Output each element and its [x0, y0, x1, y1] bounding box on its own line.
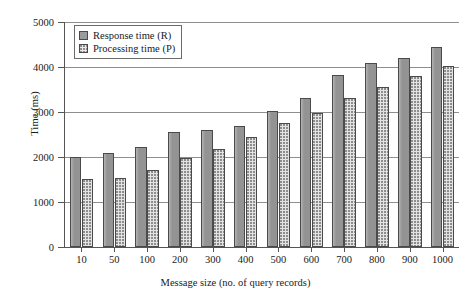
bar-group	[267, 22, 291, 247]
bar-processing-time	[213, 149, 225, 247]
bar-processing-time	[344, 98, 356, 247]
bar-response-time	[267, 111, 279, 247]
bar-group	[365, 22, 389, 247]
x-axis-tick-mark	[344, 247, 345, 252]
bar-processing-time	[410, 76, 422, 247]
x-axis-tick-mark	[114, 247, 115, 252]
bar-processing-time	[377, 87, 389, 247]
bar-processing-time	[115, 178, 127, 247]
bar-processing-time	[246, 137, 258, 247]
bar-response-time	[300, 98, 312, 247]
y-axis-tick-label: 0	[10, 242, 54, 253]
bar-group	[234, 22, 258, 247]
legend-item: Processing time (P)	[79, 42, 175, 55]
bar-processing-time	[180, 158, 192, 247]
x-axis-tick-mark	[311, 247, 312, 252]
bar-response-time	[70, 157, 82, 247]
bar-response-time	[234, 126, 246, 248]
bar-response-time	[168, 132, 180, 247]
bar-chart: Time (ms) 010002000300040005000 10501002…	[0, 0, 471, 300]
bar-processing-time	[312, 113, 324, 247]
bar-processing-time	[443, 66, 455, 247]
bar-response-time	[332, 75, 344, 247]
y-axis-tick-label: 2000	[10, 152, 54, 163]
bar-response-time	[201, 130, 213, 247]
x-axis-tick-mark	[246, 247, 247, 252]
bar-response-time	[431, 47, 443, 247]
bar-response-time	[365, 63, 377, 247]
legend-label: Processing time (P)	[93, 43, 175, 54]
bar-group	[300, 22, 324, 247]
bar-group	[431, 22, 455, 247]
bar-processing-time	[147, 170, 159, 247]
y-axis-tick-label: 3000	[10, 107, 54, 118]
x-axis-tick-mark	[147, 247, 148, 252]
legend-swatch-processing-time	[79, 44, 88, 53]
y-axis-tick-label: 1000	[10, 197, 54, 208]
x-axis-tick-mark	[81, 247, 82, 252]
bar-group	[398, 22, 422, 247]
x-axis-tick-mark	[213, 247, 214, 252]
x-axis-tick-mark	[410, 247, 411, 252]
legend-label: Response time (R)	[93, 30, 171, 41]
x-axis-tick-mark	[180, 247, 181, 252]
bar-response-time	[398, 58, 410, 247]
bar-group	[201, 22, 225, 247]
x-axis-tick-mark	[443, 247, 444, 252]
x-axis-tick-mark	[278, 247, 279, 252]
bar-processing-time	[279, 123, 291, 247]
bar-processing-time	[82, 179, 94, 247]
x-axis-tick-label: 1000	[423, 254, 463, 265]
bar-response-time	[135, 147, 147, 247]
legend: Response time (R)Processing time (P)	[74, 25, 182, 59]
bar-response-time	[103, 153, 115, 247]
y-axis-tick-label: 5000	[10, 17, 54, 28]
legend-swatch-response-time	[79, 31, 88, 40]
x-axis-tick-mark	[377, 247, 378, 252]
x-axis-title: Message size (no. of query records)	[0, 277, 471, 288]
legend-item: Response time (R)	[79, 29, 175, 42]
y-axis-tick-label: 4000	[10, 62, 54, 73]
bar-group	[332, 22, 356, 247]
